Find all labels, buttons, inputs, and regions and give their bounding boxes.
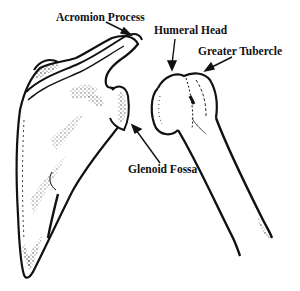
scapula [17,34,142,278]
anatomy-illustration [0,0,300,291]
label-greater-tubercle: Greater Tubercle [198,46,282,58]
label-acromion-process: Acromion Process [56,12,145,24]
label-humeral-head: Humeral Head [154,25,227,37]
label-glenoid-fossa: Glenoid Fossa [128,164,197,176]
shoulder-anatomy-diagram: Acromion Process Humeral Head Greater Tu… [0,0,300,291]
